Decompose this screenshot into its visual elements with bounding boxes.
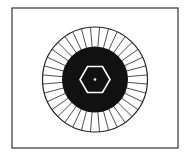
center-dot (94, 78, 97, 81)
wheel-diagram (0, 0, 186, 160)
